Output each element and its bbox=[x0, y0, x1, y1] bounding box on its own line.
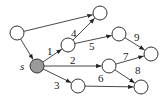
edge-label: 7 bbox=[123, 50, 129, 62]
source-node bbox=[30, 59, 44, 73]
graph-node bbox=[112, 27, 126, 41]
edge-n2-n8 bbox=[115, 70, 135, 83]
edge-label: 1 bbox=[47, 45, 53, 57]
graph-node bbox=[71, 79, 85, 93]
edge-label: 3 bbox=[54, 79, 60, 91]
graph-node bbox=[102, 59, 116, 73]
graph-node bbox=[93, 6, 107, 20]
nodes bbox=[10, 6, 158, 94]
graph-node bbox=[144, 47, 158, 61]
source-label: s bbox=[20, 60, 24, 72]
graph-node bbox=[134, 80, 148, 94]
graph-node bbox=[10, 26, 24, 40]
edge-label: 8 bbox=[135, 64, 141, 76]
edge-label: 5 bbox=[89, 40, 95, 52]
edge-n2-n9 bbox=[116, 56, 144, 64]
graph-diagram: 145927836s bbox=[0, 0, 163, 99]
graph-node bbox=[61, 38, 75, 52]
edge-label: 2 bbox=[70, 54, 76, 66]
edge-label: 6 bbox=[98, 72, 104, 84]
edge-label: 4 bbox=[71, 27, 77, 39]
edge-label: 9 bbox=[134, 31, 140, 43]
edge-top_left-top bbox=[24, 15, 93, 32]
edge-top_left-s bbox=[21, 39, 33, 60]
edge-n3-n8 bbox=[85, 86, 134, 87]
